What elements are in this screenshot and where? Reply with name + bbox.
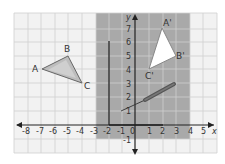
x-tick: 5 <box>201 127 206 136</box>
y-tick: 5 <box>126 52 131 61</box>
vertex-label-c-prime: C' <box>145 71 154 81</box>
x-tick: 3 <box>174 127 179 136</box>
vertex-label-b: B <box>64 44 70 54</box>
x-tick: -1 <box>117 127 125 136</box>
vertex-label-a-prime: A' <box>163 18 172 28</box>
vertex-label-b-prime: B' <box>176 51 185 61</box>
y-tick: 4 <box>126 66 131 75</box>
x-tick: 4 <box>188 127 193 136</box>
y-tick: 6 <box>126 38 131 47</box>
x-tick: 2 <box>160 127 165 136</box>
x-axis-label: x <box>211 127 217 136</box>
x-tick: -7 <box>36 127 44 136</box>
coordinate-diagram: x y -8 -7 -6 -5 -4 -3 -2 -1 0 1 2 3 4 5 … <box>0 0 225 164</box>
x-tick: 1 <box>147 127 152 136</box>
y-axis-label: y <box>125 13 131 22</box>
x-tick: -8 <box>22 127 30 136</box>
vertex-label-a: A <box>32 64 39 74</box>
y-tick: 2 <box>126 93 131 102</box>
x-tick: -2 <box>103 127 111 136</box>
x-tick: -3 <box>90 127 98 136</box>
x-tick: -4 <box>76 127 84 136</box>
y-tick: -1 <box>123 136 131 145</box>
x-tick: -6 <box>49 127 57 136</box>
y-tick: 3 <box>126 80 131 89</box>
x-tick: 0 <box>130 127 135 136</box>
x-tick: -5 <box>63 127 71 136</box>
y-tick: 7 <box>126 25 131 34</box>
vertex-label-c: C <box>84 81 90 91</box>
diagram-svg: x y -8 -7 -6 -5 -4 -3 -2 -1 0 1 2 3 4 5 … <box>0 0 225 164</box>
